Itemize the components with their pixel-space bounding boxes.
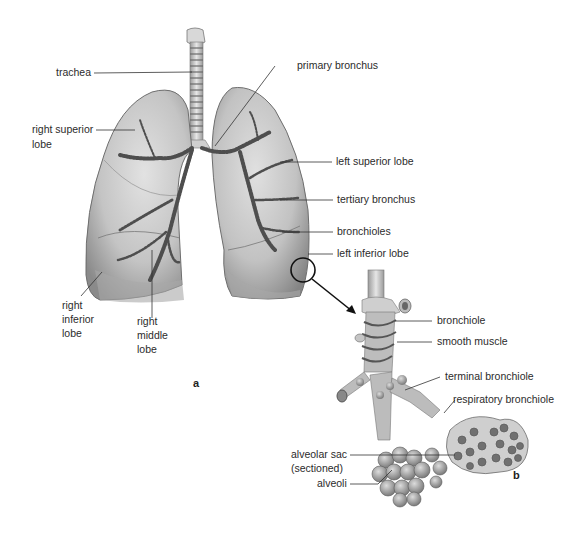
label-primary-bronchus: primary bronchus [297, 59, 378, 72]
alveoli-cluster [372, 447, 447, 507]
label-right-middle-lobe-line3: lobe [137, 343, 157, 356]
label-bronchiole: bronchiole [437, 314, 485, 327]
right-lung [86, 90, 192, 300]
label-bronchioles: bronchioles [337, 225, 391, 238]
lung-illustration [0, 0, 578, 533]
alveolar-sac-sectioned [446, 417, 528, 474]
label-right-inferior-lobe-line2: inferior [62, 313, 94, 326]
label-right-middle-lobe: right [137, 315, 157, 328]
label-smooth-muscle: smooth muscle [437, 335, 508, 348]
label-alveolar-sac: alveolar sac [291, 448, 347, 461]
label-left-inferior-lobe: left inferior lobe [337, 247, 409, 260]
label-right-inferior-lobe: right [62, 299, 82, 312]
label-alveolar-sac-line2: (sectioned) [291, 462, 343, 475]
label-alveoli: alveoli [317, 477, 347, 490]
label-tertiary-bronchus: tertiary bronchus [337, 193, 415, 206]
panel-label-b: b [513, 469, 520, 481]
label-right-middle-lobe-line2: middle [137, 329, 168, 342]
label-trachea: trachea [56, 66, 91, 79]
label-right-superior-lobe-line2: lobe [32, 138, 52, 151]
label-right-inferior-lobe-line3: lobe [62, 327, 82, 340]
label-left-superior-lobe: left superior lobe [336, 155, 414, 168]
panel-label-a: a [193, 377, 199, 389]
label-terminal-bronchiole: terminal bronchiole [445, 370, 534, 383]
left-lung [212, 87, 309, 299]
label-respiratory-bronchiole: respiratory bronchiole [453, 393, 554, 406]
label-right-superior-lobe: right superior [32, 123, 93, 136]
bronchiole-detail [337, 270, 440, 440]
